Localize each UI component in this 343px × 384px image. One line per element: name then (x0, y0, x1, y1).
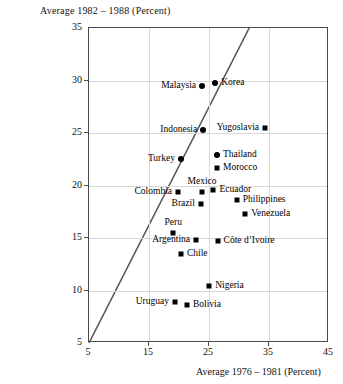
y-tick-label: 20 (46, 179, 82, 190)
gridline-vertical (149, 28, 150, 341)
data-point-label: Uruguay (136, 297, 169, 307)
data-point (200, 127, 206, 133)
y-tick-mark (84, 80, 88, 81)
x-tick-mark (148, 342, 149, 346)
data-point (207, 284, 212, 289)
data-point-label: Malaysia (161, 81, 196, 91)
gridline-horizontal (89, 81, 327, 82)
y-tick-label: 5 (46, 336, 82, 347)
data-point-label: Korea (221, 78, 244, 88)
data-point (200, 189, 205, 194)
data-point-label: Ecuador (219, 185, 251, 195)
data-point (263, 125, 268, 130)
x-axis-title: Average 1976 – 1981 (Percent) (196, 366, 321, 377)
data-point (198, 202, 203, 207)
data-point-label: Peru (164, 217, 181, 227)
y-tick-mark (84, 132, 88, 133)
data-point-label: Mexico (187, 176, 216, 186)
x-tick-mark (268, 342, 269, 346)
data-point (199, 83, 205, 89)
y-tick-label: 35 (46, 21, 82, 32)
data-point-label: Philippines (243, 196, 286, 206)
y-tick-mark (84, 290, 88, 291)
data-point (212, 80, 218, 86)
data-point-label: Yugoslavia (217, 123, 259, 133)
y-tick-label: 10 (46, 284, 82, 295)
data-point (185, 303, 190, 308)
data-point (194, 238, 199, 243)
x-tick-label: 45 (323, 346, 333, 357)
data-point-label: Brazil (172, 200, 195, 210)
y-tick-label: 25 (46, 126, 82, 137)
data-point-label: Morocco (223, 163, 257, 173)
data-point (176, 189, 181, 194)
data-point (243, 211, 248, 216)
x-tick-label: 15 (143, 346, 153, 357)
data-point-label: Côte d’Ivoire (224, 236, 275, 246)
scatter-chart: Average 1982 – 1988 (Percent) 5101520253… (0, 0, 343, 384)
data-point-label: Thailand (223, 150, 257, 160)
data-point (214, 152, 220, 158)
y-tick-label: 15 (46, 231, 82, 242)
x-tick-mark (208, 342, 209, 346)
chart-title: Average 1982 – 1988 (Percent) (40, 5, 171, 16)
data-point (178, 156, 184, 162)
x-tick-label: 35 (263, 346, 273, 357)
y-tick-label: 30 (46, 74, 82, 85)
data-point-label: Nigeria (215, 282, 244, 292)
gridline-horizontal (89, 133, 327, 134)
data-point (173, 300, 178, 305)
data-point (234, 198, 239, 203)
data-point-label: Chile (187, 249, 208, 259)
data-point (215, 165, 220, 170)
data-point-label: Colombia (135, 187, 172, 197)
data-point-label: Argentina (152, 235, 190, 245)
data-point (215, 239, 220, 244)
data-point (211, 187, 216, 192)
data-point (179, 251, 184, 256)
x-tick-label: 25 (203, 346, 213, 357)
gridline-vertical (269, 28, 270, 341)
gridline-horizontal (89, 238, 327, 239)
data-point-label: Bolivia (193, 301, 221, 311)
data-point-label: Venezuela (251, 209, 290, 219)
y-tick-mark (84, 185, 88, 186)
y-tick-mark (84, 237, 88, 238)
gridline-horizontal (89, 291, 327, 292)
data-point-label: Indonesia (160, 125, 197, 135)
data-point-label: Turkey (148, 155, 175, 165)
x-tick-label: 5 (86, 346, 91, 357)
